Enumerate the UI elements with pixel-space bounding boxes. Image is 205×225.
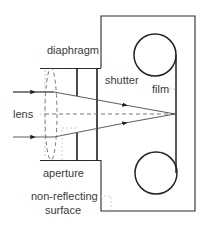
label-diaphragm: diaphragm [47, 44, 99, 56]
label-aperture: aperture [43, 167, 84, 179]
camera-diagram: diaphragm shutter film lens aperture non… [0, 0, 205, 225]
converging-ray-top [54, 92, 175, 114]
label-non-reflecting: non-reflecting [31, 190, 98, 202]
non-reflecting-leader [96, 196, 111, 211]
film-spool-top [134, 34, 176, 76]
camera-diagram-svg: diaphragm shutter film lens aperture non… [0, 0, 205, 225]
label-shutter: shutter [105, 74, 139, 86]
film-spool-bottom [135, 152, 177, 194]
label-film: film [152, 83, 169, 95]
label-surface: surface [45, 204, 81, 216]
converging-ray-bottom [54, 114, 175, 137]
camera-body [101, 16, 195, 211]
label-lens: lens [13, 108, 34, 120]
